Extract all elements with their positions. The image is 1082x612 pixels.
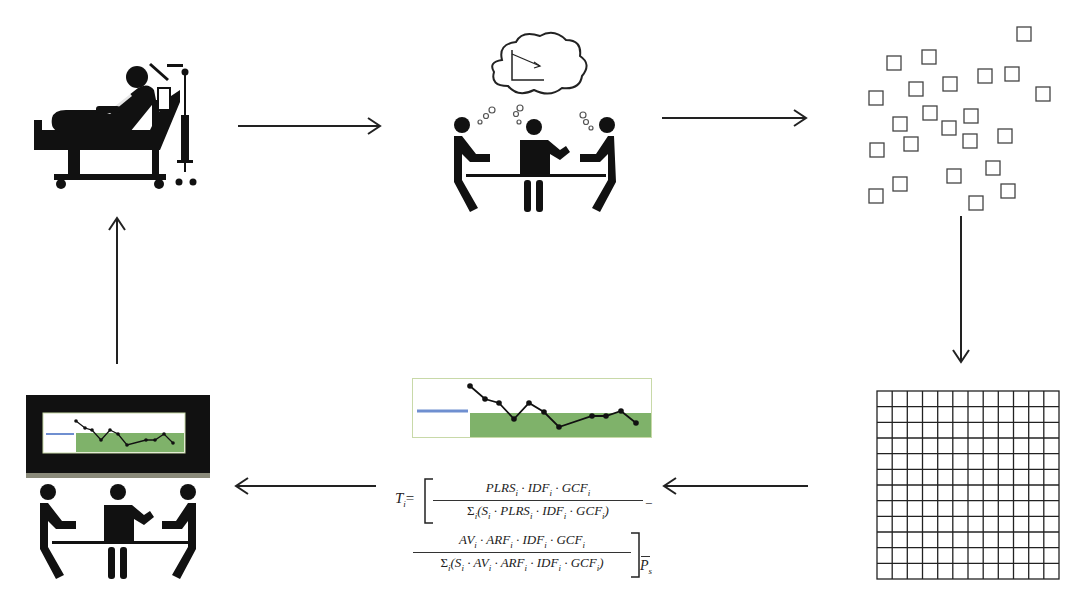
- arrow-right-1: [236, 116, 384, 136]
- arrow-up: [107, 214, 127, 366]
- presentation-meeting-icon: [26, 395, 210, 580]
- patient-bed-icon: [30, 60, 200, 195]
- control-chart-icon: [413, 379, 651, 437]
- scattered-squares-icon: [860, 20, 1060, 220]
- node-grid: [876, 390, 1060, 580]
- node-patient: [30, 60, 200, 195]
- node-scattered: [860, 20, 1060, 220]
- formula-lhs: Ti=: [395, 490, 414, 509]
- meeting-thought-icon: [440, 30, 630, 215]
- arrow-down: [951, 214, 971, 366]
- node-presentation: [26, 395, 210, 580]
- arrow-right-2: [660, 108, 810, 128]
- arrow-left-2: [232, 476, 378, 496]
- thought-cloud-icon: [492, 33, 586, 94]
- formula: Ti= PLRSi · IDFi · GCFi Σi(Si · PLRSi · …: [395, 478, 665, 588]
- formula-p-bar: Ps: [640, 558, 652, 576]
- grid-icon: [876, 390, 1060, 580]
- formula-minus: −: [645, 496, 652, 512]
- node-meeting: [440, 30, 630, 215]
- node-control-chart: [412, 378, 652, 438]
- formula-term1: PLRSi · IDFi · GCFi Σi(Si · PLRSi · IDFi…: [433, 480, 643, 520]
- arrow-left-1: [660, 476, 810, 496]
- formula-term2: AVi · ARFi · IDFi · GCFi Σi(Si · AVi · A…: [413, 532, 631, 572]
